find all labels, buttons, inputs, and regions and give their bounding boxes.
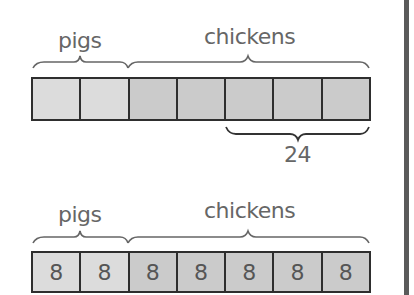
bottom-chicken-cell-3: 8 [226, 253, 274, 291]
bottom-pig-cell-2: 8 [81, 253, 129, 291]
bottom-pig-cell-1: 8 [33, 253, 81, 291]
bottom-chicken-cell-4: 8 [274, 253, 322, 291]
bottom-chicken-cell-1: 8 [130, 253, 178, 291]
bottom-tape-bar: 8 8 8 8 8 8 8 [31, 251, 371, 293]
bottom-chicken-cell-5: 8 [323, 253, 369, 291]
bottom-chicken-cell-2: 8 [178, 253, 226, 291]
